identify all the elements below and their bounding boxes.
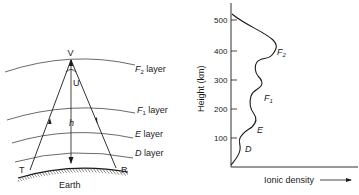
left-diagram: V U h T R Earth F2 layer F1 layer E laye…	[5, 48, 168, 190]
x-axis-label: Ionic density	[264, 175, 315, 185]
figure: V U h T R Earth F2 layer F1 layer E laye…	[0, 0, 359, 195]
height-h-label: h	[69, 118, 74, 128]
d-layer-arc	[15, 153, 133, 162]
receiver-label: R	[121, 165, 128, 175]
f2-layer-label: F2 layer	[135, 64, 166, 75]
ray-down	[71, 60, 116, 168]
tick-100: 100	[214, 134, 228, 143]
f1-peak-label: F1	[264, 93, 273, 104]
y-axis-label: Height (km)	[196, 65, 206, 112]
f1-layer-label: F1 layer	[137, 105, 168, 116]
x-direction-arrowhead-icon	[346, 178, 352, 182]
f2-peak-label: F2	[277, 47, 287, 58]
tick-200: 200	[214, 105, 228, 114]
transmitter-label: T	[19, 165, 25, 175]
e-layer-label: E layer	[135, 129, 163, 139]
d-peak-label: D	[245, 144, 252, 154]
e-layer-arc	[12, 133, 133, 143]
ionic-density-chart: 500 400 300 200 100 Height (km) F2 F1 E …	[196, 3, 358, 185]
tick-500: 500	[214, 16, 228, 25]
height-arrow-down-icon	[69, 157, 74, 164]
ray-down-arrow-icon	[95, 118, 98, 125]
tick-400: 400	[214, 47, 228, 56]
earth-label: Earth	[59, 180, 81, 190]
height-arrow-up-icon	[69, 59, 73, 66]
e-peak-label: E	[257, 125, 264, 135]
tick-300: 300	[214, 76, 228, 85]
y-ticks	[231, 20, 237, 138]
density-profile-curve	[231, 14, 276, 165]
angle-u-label: U	[73, 78, 80, 88]
d-layer-label: D layer	[135, 148, 164, 158]
point-v-label: V	[68, 48, 74, 58]
